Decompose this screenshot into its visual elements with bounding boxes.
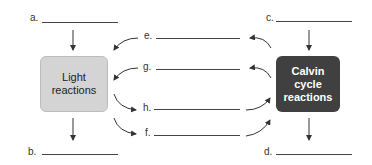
blank-d-label: d. bbox=[264, 147, 272, 157]
blank-f-line[interactable] bbox=[154, 135, 240, 136]
light-box-line1: Light bbox=[52, 71, 97, 84]
blank-b-label: b. bbox=[28, 147, 36, 157]
calvin-box-line2: cycle bbox=[284, 78, 333, 91]
blank-c-line[interactable] bbox=[276, 21, 352, 22]
blank-g-label: g. bbox=[143, 62, 151, 72]
blank-h-label: h. bbox=[143, 103, 151, 113]
light-box-line2: reactions bbox=[52, 84, 97, 97]
blank-e-line[interactable] bbox=[156, 38, 240, 39]
blank-d-line[interactable] bbox=[276, 154, 352, 155]
blank-a-label: a. bbox=[30, 13, 38, 23]
calvin-cycle-box: Calvin cycle reactions bbox=[276, 56, 340, 112]
blank-g-line[interactable] bbox=[156, 69, 240, 70]
blank-e-label: e. bbox=[144, 31, 152, 41]
calvin-box-line1: Calvin bbox=[284, 65, 333, 78]
blank-c-label: c. bbox=[266, 13, 274, 23]
blank-h-line[interactable] bbox=[154, 109, 240, 110]
calvin-box-line3: reactions bbox=[284, 91, 333, 104]
blank-a-line[interactable] bbox=[42, 22, 118, 23]
light-reactions-box: Light reactions bbox=[40, 56, 108, 112]
blank-b-line[interactable] bbox=[42, 154, 118, 155]
blank-f-label: f. bbox=[145, 128, 151, 138]
